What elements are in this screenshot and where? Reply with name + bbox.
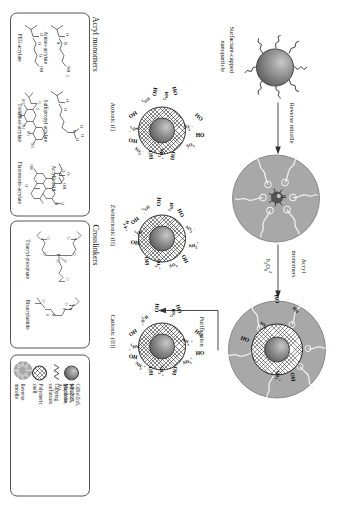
svg-text:O: O [37,100,41,103]
svg-text:O: O [65,98,70,101]
svg-text:P: P [56,253,61,256]
svg-text:O: O [64,302,69,305]
reverse-micelle-icon [13,359,33,381]
cat-oh-1: OH [171,365,179,375]
core-sphere-icon [64,365,79,380]
group-oh-a: OH [289,372,296,381]
cat-nh3-5: NH3+ [128,342,139,351]
svg-text:S: S [72,130,77,133]
svg-text:O: O [79,124,84,127]
cat-ho-2: HO [196,349,205,355]
zw-hn: HN2 [167,202,174,210]
cat-hn: HN2 [169,308,176,316]
legend-label-surfactant: Capping surfactant [48,383,60,403]
svg-text:O: O [63,108,68,111]
panel-crosslinkers: O O O O P O O O Triacryl-phosphate [10,220,90,348]
zw-oh-1: OH [180,253,189,264]
molecule-label-trehalose-acrylate: Trehalose-acrylate [17,103,23,141]
svg-text:O: O [38,53,43,56]
reagent-charge: 2- [268,271,273,275]
svg-text:O: O [35,107,39,110]
svg-text:O: O [37,41,42,44]
zw-so3-1: SO3- [184,223,196,235]
molecule-sulfopropyl-acrylate: O O S O O O Sulfopropyl acrylate [45,87,87,149]
panel-legend: CdSe/ZnS, γ-Fe2O3, Mn:ZnS, Mn:ZnSe, Au, … [10,354,90,496]
svg-text:O: O [60,201,65,204]
cat-ho-5: HO [128,327,139,337]
cat-nh3-3: NH3+ [157,365,165,375]
molecule-fluorescein-acrylate: O O O OH O Fluorescein-acrylate [21,159,65,211]
mesh-shell-icon [32,365,47,380]
zw-ho-4: HO [130,239,139,246]
anionic-so3-2: SO3- [185,139,196,150]
product-anionic: HO HO SO3- SO3- HO HN2 HO OH NH3+ OH SO3… [122,88,204,170]
arrow-reverse-micelle [272,102,284,154]
core-cationic [149,333,175,359]
start-label-line1: Surfactant-capped [229,26,236,73]
svg-text:O: O [46,236,51,239]
product-cationic: HO HO NH3+ NH3+ HN2 HO HO OH NH3+ OH H3N… [122,304,204,386]
anionic-oh-2: OH [147,150,154,159]
svg-text:OH: OH [29,163,34,169]
legend-item-micelle: Reverse micelle [13,359,33,381]
trehalose-acrylate-structure-icon: O O HO OH OH HO OH [19,89,47,153]
molecule-triacryl-phosphate: O O O O P O O O Triacryl-phosphate [33,227,85,289]
zw-so3-4: SO3- [133,227,144,237]
label-zwitterionic: Zwitterionic (II) [110,204,117,246]
zw-ho-3: HO [130,215,141,225]
reagent-s: S [265,258,272,262]
surfactant-capped-nanoparticle [244,34,308,98]
cat-ho-3: HO [175,303,183,313]
svg-text:O: O [65,32,70,35]
zw-oh-2: OH [144,256,151,265]
anionic-ho-5: HO [128,109,139,119]
legend-label-micelle: Reverse micelle [14,383,26,400]
anionic-ho-4: HO [151,87,158,96]
zw-ho-2: HO [156,197,163,206]
core-zwitterionic [149,225,175,251]
anionic-so3-1: SO3- [182,121,193,132]
legend-label-shell: Polymeric shell [32,383,44,404]
zw-ho-1: HO [176,207,185,217]
cat-nh3-2: NH3+ [182,356,195,367]
legend-item-surfactant: Capping surfactant [51,363,61,381]
svg-text:O: O [54,201,59,204]
svg-text:N: N [68,307,73,310]
legend-label-core-line3: graphene [63,383,69,402]
svg-text:O: O [63,259,68,262]
step2-reagent: S2O82- [263,258,273,274]
svg-text:O: O [39,32,44,35]
cat-ho-6: HO [128,353,138,361]
cat-nh3-4: H3N+ [137,313,150,326]
molecule-label-fluorescein-acrylate: Fluorescein-acrylate [17,161,23,203]
reagent-sub-8: 8 [263,268,268,270]
svg-text:N: N [63,41,68,45]
svg-text:O: O [24,184,29,187]
zigzag-surfactant-icon [51,363,61,381]
zw-so3-3: SO3- [140,202,152,214]
anionic-nh3: NH3+ [157,148,165,158]
product-zwitterionic: HO SO3- NH3+ OH SO3- HN2 HO NH3+ SO3- OH… [122,196,204,278]
amino-acrylate-structure-icon: O N H NH 2 [45,19,85,81]
molecule-bisacrylamide: O N H N H O Bisacrylamide [31,291,81,339]
svg-text:2: 2 [65,74,69,76]
anionic-so3-4: SO3- [129,124,139,134]
start-label-line2: nanoparticle [220,40,227,72]
molecule-amino-acrylate: O N H NH 2 Amino-acrylate [45,19,85,81]
anionic-hn: HN2 [162,91,169,99]
svg-text:OH: OH [30,142,34,148]
svg-text:H: H [56,41,60,44]
molecule-label-triacryl-phosphate: Triacryl-phosphate [25,239,31,278]
figure-canvas: Surfactant-capped nanoparticle Reverse m… [0,0,348,505]
panel-acryl-monomers: O N H NH 2 Amino-acrylate [10,12,90,216]
label-cationic: Cationic (III) [110,314,117,348]
svg-text:O: O [42,252,47,255]
anionic-so3-3: SO3- [140,94,152,106]
step1-label: Reverse micelle [289,102,296,143]
triacryl-phosphate-structure-icon: O O O O P O O O [33,227,85,289]
svg-text:O: O [41,299,46,302]
molecule-label-peg-acrylate: PEG-acrylate [17,33,23,61]
group-nh3-a: NH3+ [274,370,282,381]
surfactant-tails-icon [234,154,320,240]
anionic-ho-6: HO [128,137,138,144]
